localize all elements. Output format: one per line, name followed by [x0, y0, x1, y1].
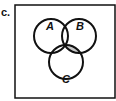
label-a: A — [45, 20, 54, 32]
venn-diagram: A B C — [0, 0, 116, 101]
label-b: B — [76, 20, 84, 32]
label-c: C — [62, 73, 71, 85]
